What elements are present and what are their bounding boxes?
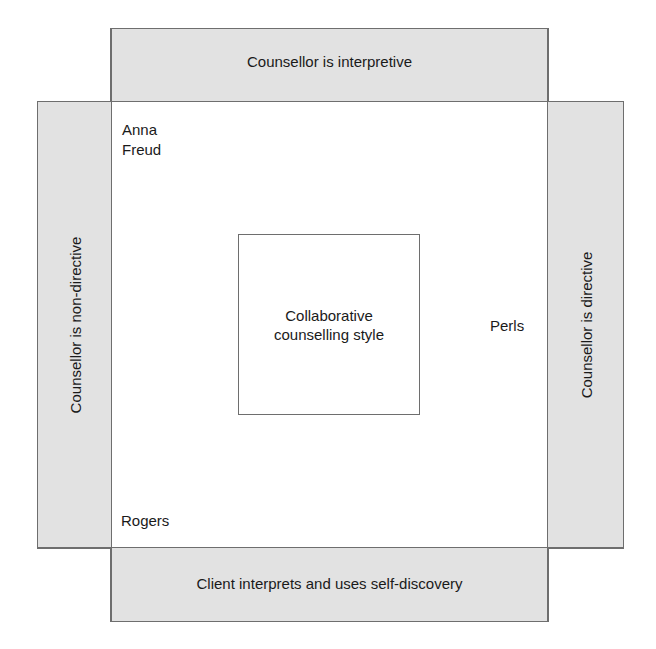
top-band-interpretive: Counsellor is interpretive: [110, 28, 549, 102]
collaborative-style-label: Collaborative counselling style: [274, 306, 384, 344]
right-band-label: Counsellor is directive: [577, 252, 594, 399]
collaborative-line2: counselling style: [274, 326, 384, 343]
bottom-band-self-discovery: Client interprets and uses self-discover…: [110, 547, 549, 622]
field-border-right: [547, 28, 548, 622]
example-perls: Perls: [490, 317, 524, 335]
bottom-band-label: Client interprets and uses self-discover…: [111, 575, 548, 593]
example-rogers: Rogers: [121, 512, 169, 530]
collaborative-line1: Collaborative: [285, 307, 373, 324]
collaborative-style-box: Collaborative counselling style: [238, 234, 420, 415]
field-border-bottom: [37, 547, 624, 548]
field-border-top: [37, 101, 624, 102]
top-band-label: Counsellor is interpretive: [111, 53, 548, 71]
left-band-label: Counsellor is non-directive: [66, 237, 83, 414]
anna-freud-line1: Anna: [122, 121, 157, 138]
example-anna-freud: Anna Freud: [122, 120, 161, 160]
field-border-left: [111, 28, 112, 622]
left-band-non-directive: Counsellor is non-directive: [37, 101, 112, 549]
right-band-directive: Counsellor is directive: [547, 101, 624, 549]
anna-freud-line2: Freud: [122, 141, 161, 158]
